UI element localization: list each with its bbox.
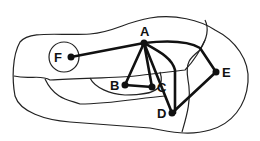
label-d: D xyxy=(157,106,166,121)
node-f xyxy=(68,54,75,61)
label-e: E xyxy=(222,65,231,80)
edge-a-f xyxy=(71,43,144,57)
region-divider-horizontal xyxy=(14,40,205,80)
map-graph-diagram: A B C D E F xyxy=(0,0,260,141)
node-e xyxy=(213,69,220,76)
region-divider-right xyxy=(182,20,207,132)
label-a: A xyxy=(140,24,150,39)
node-d xyxy=(169,110,176,117)
edge-e-d xyxy=(172,72,216,113)
region-divider-lower xyxy=(45,79,165,104)
edge-b-c xyxy=(125,85,152,87)
label-b: B xyxy=(110,78,119,93)
node-c xyxy=(149,84,156,91)
node-b xyxy=(122,82,129,89)
label-c: C xyxy=(157,80,167,95)
label-f: F xyxy=(54,50,62,65)
edge-a-d xyxy=(144,43,172,113)
edge-a-b xyxy=(125,43,144,85)
node-a xyxy=(141,40,148,47)
